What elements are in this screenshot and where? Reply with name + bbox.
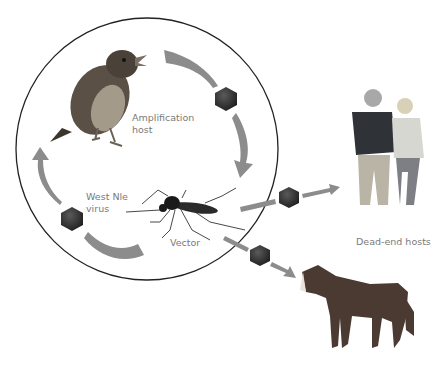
vector-label: Vector [170, 237, 200, 249]
amplification-host-line2: host [132, 124, 153, 135]
transmission-diagram: Amplification host West Nle virus Vector… [0, 0, 443, 366]
virus-label-line2: virus [86, 203, 109, 214]
amplification-host-line1: Amplification [132, 112, 194, 123]
amplification-host-label: Amplification host [132, 112, 194, 136]
virus-label-line1: West Nle [86, 191, 128, 202]
dead-end-hosts-label: Dead-end hosts [356, 236, 431, 248]
west-nile-virus-label: West Nle virus [86, 191, 128, 215]
